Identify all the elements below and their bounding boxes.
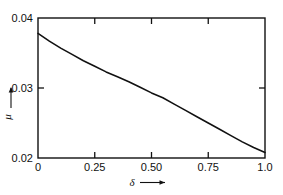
x-tick-label: 0 <box>35 161 41 173</box>
x-axis-title-group: δ <box>129 176 165 188</box>
axis-ticks <box>38 18 265 158</box>
plot-frame <box>38 18 265 158</box>
data-curve-mu <box>38 33 265 152</box>
y-tick-label: 0.02 <box>12 152 33 164</box>
x-axis-tick-labels: 00.250.500.751.0 <box>35 161 273 173</box>
y-axis-title-group: μ <box>1 87 13 121</box>
y-axis-title: μ <box>1 114 13 121</box>
chart-svg: 00.250.500.751.0 0.020.030.04 δ μ <box>0 0 283 195</box>
chart-figure: 00.250.500.751.0 0.020.030.04 δ μ <box>0 0 283 195</box>
y-tick-label: 0.03 <box>12 82 33 94</box>
x-tick-label: 0.50 <box>141 161 162 173</box>
x-tick-label: 0.75 <box>198 161 219 173</box>
x-axis-title: δ <box>129 176 135 188</box>
x-tick-label: 0.25 <box>84 161 105 173</box>
y-tick-label: 0.04 <box>12 12 33 24</box>
y-axis-tick-labels: 0.020.030.04 <box>12 12 33 164</box>
x-tick-label: 1.0 <box>257 161 272 173</box>
x-axis-arrow-head-icon <box>160 180 166 185</box>
